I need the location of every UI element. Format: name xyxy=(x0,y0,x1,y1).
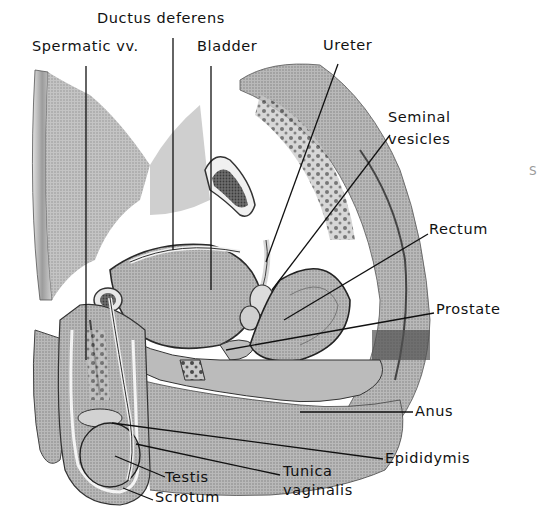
perineum xyxy=(120,340,403,495)
anatomy-illustration xyxy=(0,0,538,520)
label-bladder: Bladder xyxy=(197,38,257,55)
label-anus: Anus xyxy=(415,403,453,420)
colon-loop xyxy=(205,157,255,217)
label-rectum: Rectum xyxy=(429,221,488,238)
label-seminal-vesicles: Seminal vesicles xyxy=(388,106,451,150)
external-genitalia xyxy=(33,298,150,505)
label-ductus-deferens: Ductus deferens xyxy=(97,10,225,27)
label-ureter: Ureter xyxy=(323,37,372,54)
label-testis: Testis xyxy=(165,469,209,486)
label-prostate: Prostate xyxy=(436,301,501,318)
label-tunica-vaginalis: Tunica vaginalis xyxy=(283,462,353,500)
label-spermatic-vv: Spermatic vv. xyxy=(32,38,139,55)
label-scrotum: Scrotum xyxy=(155,489,220,506)
cropped-edge-text: S xyxy=(529,164,537,178)
label-epididymis: Epididymis xyxy=(385,450,470,467)
